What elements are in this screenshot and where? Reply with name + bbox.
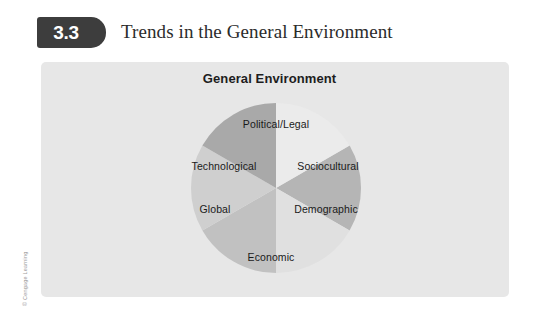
pie-label-demographic: Demographic (294, 203, 358, 215)
pie-label-economic: Economic (248, 251, 295, 263)
exhibit-number-label: 3.3 (37, 17, 95, 48)
exhibit-title: Trends in the General Environment (121, 21, 393, 43)
pie-label-political-legal: Political/Legal (243, 118, 309, 130)
chart-title: General Environment (0, 71, 539, 86)
exhibit-figure: EXHIBIT 3.3 Trends in the General Enviro… (0, 0, 539, 318)
copyright-notice: © Cengage Learning (19, 226, 31, 306)
pie-label-sociocultural: Sociocultural (297, 160, 358, 172)
pie-label-technological: Technological (192, 160, 257, 172)
exhibit-number-badge: 3.3 (37, 17, 106, 48)
pie-label-global: Global (200, 203, 231, 215)
